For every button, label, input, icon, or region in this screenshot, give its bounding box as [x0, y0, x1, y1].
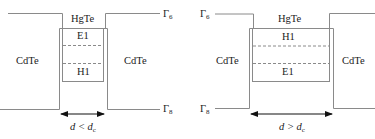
right-gamma8-label: Γ8	[200, 104, 210, 116]
right-gamma6-band-edge-right	[330, 14, 375, 29]
right-width-condition-label: d > dc	[279, 122, 305, 134]
left-hgte-label: HgTe	[71, 14, 94, 25]
left-gamma6-label: Γ6	[163, 9, 173, 21]
right-gamma6-label: Γ6	[200, 9, 210, 21]
left-gamma8-label: Γ8	[163, 104, 173, 116]
band-diagram	[0, 0, 375, 139]
left-e1-label: E1	[77, 31, 89, 42]
left-gamma6-band-edge-right	[106, 14, 161, 29]
right-h1-label: H1	[282, 32, 295, 43]
right-hgte-label: HgTe	[278, 14, 301, 25]
left-gamma6-band-edge	[8, 14, 63, 29]
left-barrier-cdte-label: CdTe	[16, 56, 39, 67]
left-width-condition-label: d < dc	[70, 122, 96, 134]
left-barrier-cdte-right-label: CdTe	[124, 56, 147, 67]
left-h1-label: H1	[77, 67, 90, 78]
right-barrier-cdte-label: CdTe	[216, 56, 239, 67]
right-gamma8-band-edge	[215, 29, 375, 109]
right-barrier-cdte-right-label: CdTe	[342, 56, 365, 67]
right-gamma6-band-edge	[215, 14, 254, 28]
right-e1-label: E1	[282, 67, 294, 78]
